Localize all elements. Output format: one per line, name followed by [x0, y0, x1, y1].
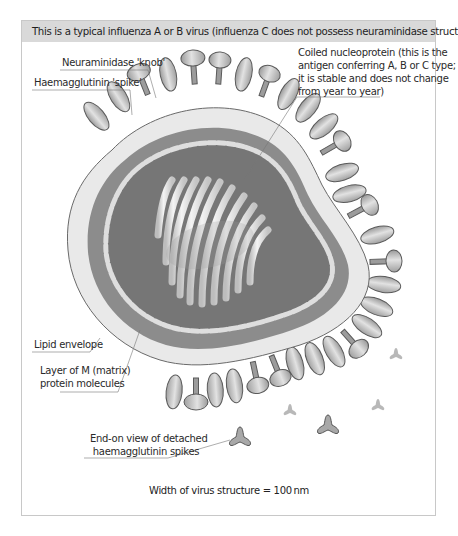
detached-spike-icon — [372, 399, 385, 410]
label-nucleoprotein-line: from year to year) — [298, 85, 456, 98]
detached-spike-icon — [284, 404, 297, 415]
label-nucleoprotein-line: it is stable and does not change — [298, 72, 456, 85]
label-matrix-line: Layer of M (matrix) — [40, 364, 120, 377]
label-neuraminidase: Neuraminidase 'knob' — [62, 56, 165, 69]
label-detached-spikes: End-on view of detached haemagglutinin s… — [90, 432, 202, 458]
label-nucleoprotein-line: antigen conferring A, B or C type; — [298, 59, 456, 72]
scale-caption: Width of virus structure = 100 nm — [0, 485, 458, 496]
label-detached-line: haemagglutinin spikes — [90, 445, 202, 458]
label-nucleoprotein-line: Coiled nucleoprotein (this is the — [298, 46, 456, 59]
label-haemagglutinin: Haemagglutinin 'spike' — [34, 76, 142, 89]
label-nucleoprotein: Coiled nucleoprotein (this is the antige… — [298, 46, 456, 98]
label-matrix: Layer of M (matrix) protein molecules — [40, 364, 120, 390]
label-lipid-envelope: Lipid envelope — [34, 338, 103, 351]
label-detached-line: End-on view of detached — [90, 432, 202, 445]
detached-spike-icon — [317, 415, 338, 434]
detached-spike-icon — [390, 348, 403, 359]
label-matrix-line: protein molecules — [40, 377, 120, 390]
detached-spike-icon — [229, 427, 250, 446]
